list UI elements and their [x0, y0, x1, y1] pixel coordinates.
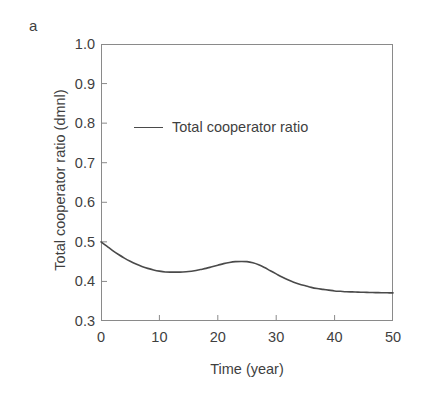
x-tick-label: 0	[81, 330, 121, 345]
x-tick-label: 20	[198, 330, 238, 345]
x-axis-title: Time (year)	[101, 361, 393, 377]
legend: Total cooperator ratio	[134, 120, 308, 135]
x-tick-label: 30	[256, 330, 296, 345]
x-tick-label: 40	[315, 330, 355, 345]
legend-line-swatch	[134, 127, 163, 128]
legend-label: Total cooperator ratio	[172, 120, 308, 135]
figure-panel: a Total cooperator ratio (dmnl) 0.30.40.…	[0, 0, 427, 416]
x-axis-tick-labels: 01020304050	[0, 0, 427, 416]
x-tick-label: 10	[139, 330, 179, 345]
x-tick-label: 50	[373, 330, 413, 345]
